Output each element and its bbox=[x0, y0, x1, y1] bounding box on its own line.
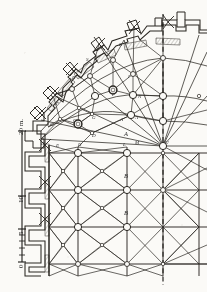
plan-drawing bbox=[0, 0, 207, 292]
vault-label-H: H bbox=[78, 142, 82, 147]
vault-label-G-inner: G bbox=[92, 115, 96, 120]
vault-label-U: U bbox=[165, 140, 169, 145]
vault-label-P: P bbox=[112, 92, 115, 97]
bay-label-B2: B bbox=[124, 210, 128, 217]
vault-label-A-node: A bbox=[135, 115, 138, 120]
vault-label-I: I bbox=[128, 74, 130, 79]
vault-label-O: O bbox=[73, 118, 77, 123]
vault-label-L: L bbox=[123, 142, 126, 147]
vault-label-E: E bbox=[56, 143, 59, 148]
vault-label-G-outer: G bbox=[50, 122, 54, 127]
vault-label-K: K bbox=[119, 42, 122, 47]
ambulatory-radii bbox=[163, 110, 207, 264]
vault-label-R: R bbox=[72, 75, 75, 80]
vault-label-N: N bbox=[138, 94, 141, 99]
vault-label-S: S bbox=[86, 57, 89, 62]
scale-tick-10: 10 bbox=[17, 196, 25, 203]
choir-tierceron-ribs bbox=[49, 153, 127, 264]
bay-label-B1: B bbox=[124, 173, 128, 180]
vault-label-A-prime: A' bbox=[120, 117, 124, 122]
pinnacle-cluster bbox=[25, 12, 185, 148]
vault-label-D: D bbox=[92, 133, 96, 138]
bay-label-A: A bbox=[124, 131, 128, 138]
vault-label-M: M bbox=[135, 140, 139, 145]
vault-label-F: F bbox=[56, 101, 59, 106]
scale-unit-label: 20 m. bbox=[17, 119, 25, 135]
architectural-plate: 20 m. 10 5 0 K S R F G P N I G O A' A D … bbox=[0, 0, 207, 292]
scale-tick-0: 0 bbox=[17, 265, 25, 269]
choir-west-wall bbox=[25, 139, 51, 276]
vault-label-D-wall: D bbox=[41, 141, 45, 146]
scale-tick-5: 5 bbox=[17, 232, 25, 236]
